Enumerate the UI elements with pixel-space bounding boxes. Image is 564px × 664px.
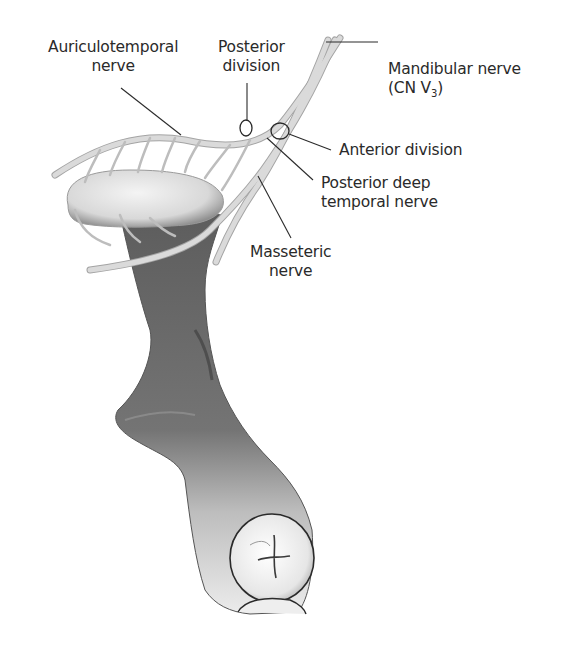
mandibular-condyle [67, 170, 223, 227]
label-line: division [218, 57, 285, 76]
label-posterior-deep-temporal-nerve: Posterior deep temporal nerve [321, 174, 438, 212]
label-line: Masseteric [250, 243, 331, 262]
label-line: Anterior division [339, 141, 462, 160]
label-posterior-division: Posterior division [218, 38, 285, 76]
label-line: nerve [250, 262, 331, 281]
label-line: (CN V3) [388, 79, 521, 103]
cn-prefix: (CN V [388, 79, 431, 97]
label-mandibular-nerve: Mandibular nerve (CN V3) [388, 60, 521, 103]
label-line: Mandibular nerve [388, 60, 521, 79]
cn-suffix: ) [437, 79, 443, 97]
label-masseteric-nerve: Masseteric nerve [250, 243, 331, 281]
label-anterior-division: Anterior division [339, 141, 462, 160]
posterior-division-ring [240, 120, 252, 136]
label-auriculotemporal-nerve: Auriculotemporal nerve [48, 38, 178, 76]
label-line: Posterior [218, 38, 285, 57]
label-line: temporal nerve [321, 193, 438, 212]
label-line: Posterior deep [321, 174, 438, 193]
label-line: Auriculotemporal [48, 38, 178, 57]
label-line: nerve [48, 57, 178, 76]
